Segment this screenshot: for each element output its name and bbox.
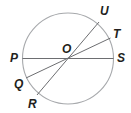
label-q: Q — [14, 77, 24, 91]
label-u: U — [100, 4, 109, 18]
label-r: R — [28, 97, 37, 111]
label-o: O — [62, 42, 72, 56]
label-s: S — [117, 51, 125, 65]
geometry-diagram: O P Q R S T U — [0, 0, 131, 113]
circle-diagram-svg: O P Q R S T U — [0, 0, 131, 113]
label-t: T — [113, 27, 122, 41]
label-p: P — [10, 51, 19, 65]
